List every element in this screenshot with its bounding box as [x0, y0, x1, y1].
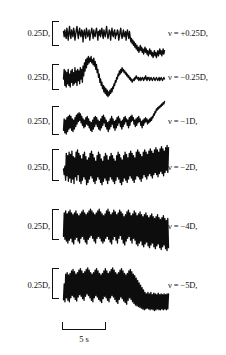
y-scale-bracket — [52, 21, 59, 46]
y-scale-label: 0.25D, — [8, 72, 50, 82]
x-scale-label: 5 s — [62, 334, 106, 344]
y-scale-label: 0.25D, — [8, 221, 50, 231]
vergence-label: ν = −5D, — [168, 280, 197, 290]
vergence-label: ν = −4D, — [168, 221, 197, 231]
x-scale-bar-group: 5 s — [0, 316, 226, 352]
y-scale-label: 0.25D, — [8, 28, 50, 38]
y-scale-bracket — [52, 106, 59, 135]
x-scale-bar — [62, 322, 106, 330]
trace-row: 0.25D, ν = −5D, — [0, 259, 226, 315]
y-scale-bracket — [52, 64, 59, 90]
waveform-trace — [62, 143, 170, 195]
y-scale-bracket — [52, 268, 59, 299]
waveform-trace — [62, 54, 166, 104]
waveform-trace — [62, 99, 166, 149]
vergence-label: ν = −0.25D, — [168, 72, 208, 82]
y-scale-label: 0.25D, — [8, 280, 50, 290]
y-scale-label: 0.25D, — [8, 116, 50, 126]
waveform-trace — [62, 10, 166, 60]
vergence-label: ν = −1D, — [168, 116, 197, 126]
accommodation-traces-figure: 0.25D, ν = +0.25D, 0.25D, ν = −0.25D, 0.… — [0, 0, 226, 355]
vergence-label: ν = +0.25D, — [168, 28, 208, 38]
trace-row: 0.25D, ν = −2D, — [0, 143, 226, 199]
y-scale-bracket — [52, 209, 59, 240]
vergence-label: ν = −2D, — [168, 162, 197, 172]
trace-row: 0.25D, ν = −4D, — [0, 201, 226, 257]
waveform-trace — [62, 259, 170, 313]
y-scale-bracket — [52, 149, 59, 181]
y-scale-label: 0.25D, — [8, 162, 50, 172]
waveform-trace — [62, 201, 170, 253]
